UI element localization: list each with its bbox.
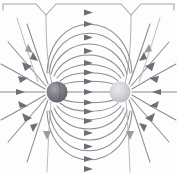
arrowhead-upper-6 (84, 21, 93, 27)
arrowhead-right-in-6 (145, 113, 155, 122)
field-line-upper-7 (47, 24, 132, 73)
field-line-lower-7 (47, 111, 132, 160)
negative-pole-sphere (47, 82, 68, 103)
arrowhead-lower-3 (84, 118, 93, 124)
arrowhead-lower-7 (84, 166, 93, 172)
arrowhead-left-in-8 (43, 131, 51, 140)
field-line-left-radial-1 (27, 24, 48, 84)
field-diagram-canvas (0, 0, 177, 174)
arrowhead-left-in-9 (25, 44, 33, 53)
left-brace-icon (3, 4, 88, 15)
arrowhead-upper-7 (84, 10, 93, 16)
arrowhead-upper-2 (84, 70, 93, 76)
arrowhead-axis (84, 89, 93, 95)
positive-pole (110, 82, 131, 103)
upper-field-lines (47, 24, 132, 85)
arrowhead-lower-4 (84, 130, 93, 136)
right-brace-icon (88, 4, 174, 15)
arrowhead-upper-3 (84, 60, 93, 66)
arrowhead-left-in-5 (18, 101, 28, 108)
arrowhead-lower-6 (84, 156, 93, 162)
positive-pole-sphere (110, 82, 131, 103)
arrowhead-right-in-9 (144, 44, 152, 53)
outer-left-field-lines (0, 18, 51, 172)
field-line-lower-2 (60, 103, 118, 111)
arrowhead-upper-5 (84, 35, 93, 41)
arrowhead-lower-1 (84, 100, 93, 106)
field-line-right-radial-1 (129, 24, 150, 84)
arrowhead-right-in-4 (152, 89, 161, 95)
lower-field-lines (47, 99, 132, 160)
arrowhead-right-in-3 (149, 76, 159, 83)
arrowhead-left-in-6 (22, 113, 32, 122)
arrowhead-left-in-3 (18, 76, 28, 83)
arrowhead-right-in-8 (126, 131, 134, 140)
arrowhead-left-in-4 (16, 89, 25, 95)
negative-pole (47, 82, 68, 103)
arrowhead-lower-5 (84, 144, 93, 150)
dipole-field-diagram (0, 0, 177, 174)
arrowhead-upper-4 (84, 48, 93, 54)
field-line-upper-5 (51, 44, 127, 74)
field-line-lower-5 (51, 110, 127, 140)
field-line-upper-2 (60, 73, 118, 81)
arrowhead-lower-2 (84, 109, 93, 115)
outer-right-field-lines (126, 18, 177, 172)
arrowhead-upper-1 (84, 79, 93, 85)
arrowhead-right-in-5 (149, 101, 159, 108)
